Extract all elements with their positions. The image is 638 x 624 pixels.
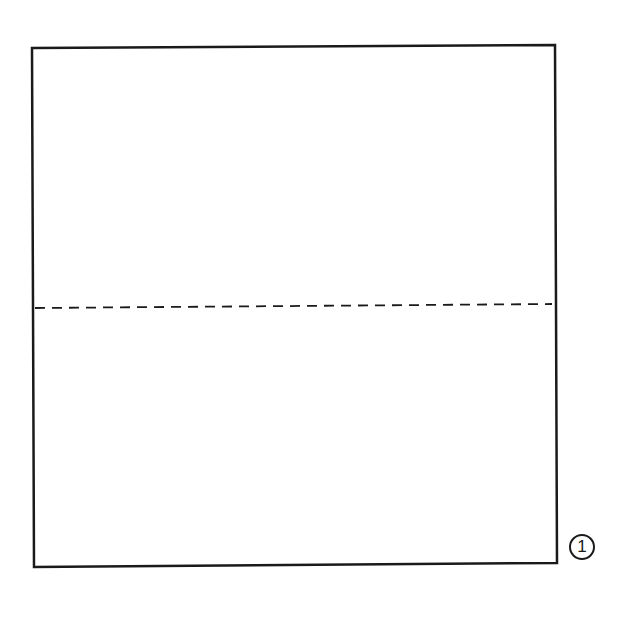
fold-diagram xyxy=(0,0,638,624)
step-number-badge: 1 xyxy=(569,534,595,560)
step-number: 1 xyxy=(577,537,586,557)
